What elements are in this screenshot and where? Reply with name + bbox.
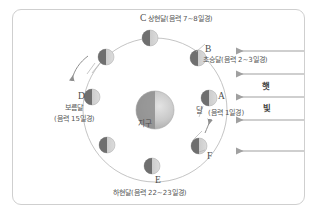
moon-upper-left	[98, 49, 114, 65]
diagram-canvas	[0, 0, 331, 215]
moon-C	[142, 30, 158, 46]
label-E-text: 하현달(음력 22~23일경)	[113, 190, 186, 197]
label-D-name: 보름달	[65, 105, 83, 112]
label-B-letter: B	[205, 45, 211, 55]
label-earth: 지구	[138, 120, 152, 128]
moon-F	[191, 138, 207, 154]
moon-E	[144, 158, 160, 174]
label-sunlight-line1: 햇	[262, 82, 270, 90]
label-C-text: 상현달(음력 7~8일경)	[148, 16, 212, 23]
moon-A	[201, 90, 217, 106]
label-E-letter: E	[155, 176, 161, 186]
label-D-date: (음력 15일경)	[54, 116, 95, 123]
moon-D	[84, 89, 100, 105]
moon-phase-diagram: C 상현달(음력 7~8일경) B 초승달(음력 2~3일경) A 달 (음력 …	[0, 0, 331, 215]
label-A-date: (음력 1일경)	[208, 110, 244, 117]
moon-travel-arrow	[205, 120, 210, 133]
label-moon-generic: 달	[196, 107, 203, 115]
label-C-letter: C	[140, 14, 146, 24]
moon-lower-left	[99, 137, 115, 153]
label-F-letter: F	[207, 152, 212, 162]
label-B-text: 초승달(음력 2~3일경)	[203, 57, 267, 64]
label-D-letter: D	[78, 92, 85, 102]
sunlight-rays	[237, 51, 304, 151]
label-A-letter: A	[218, 92, 225, 102]
diagram-stage: C 상현달(음력 7~8일경) B 초승달(음력 2~3일경) A 달 (음력 …	[0, 0, 331, 215]
orbit-direction-arrow	[72, 56, 88, 80]
label-sunlight-line2: 빛	[263, 104, 271, 112]
